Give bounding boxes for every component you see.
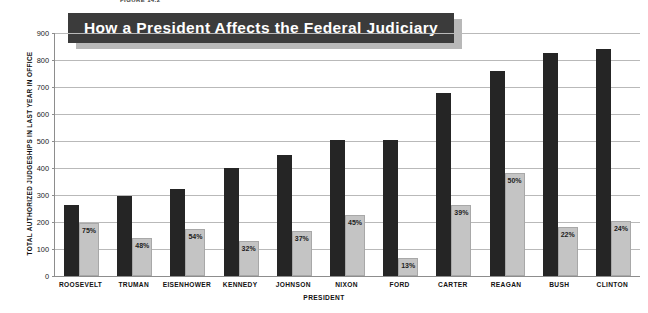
y-axis-tick-label: 900 [15,29,49,38]
x-axis-category-label: BUSH [533,281,586,288]
bar-percent-label: 50% [506,177,524,184]
bar-judgeships-filled: 13% [398,258,418,276]
bar-group: 37% [277,33,312,276]
plot-area: 0100200300400500600700800900 75%48%54%32… [54,33,639,277]
bar-judgeships-filled: 45% [345,215,365,276]
figure-label: FIGURE 14.2 [120,0,160,3]
x-axis-title: PRESIDENT [0,294,648,301]
y-axis-tick-label: 100 [15,245,49,254]
bar-percent-label: 32% [240,245,258,252]
bar-percent-label: 48% [133,242,151,249]
bar-group: 24% [596,33,631,276]
bar-judgeships-filled: 37% [292,231,312,276]
y-axis-tick-label: 0 [15,272,49,281]
x-axis-category-label: NIXON [320,281,373,288]
bar-judgeships-filled: 75% [79,223,99,276]
bar-percent-label: 54% [186,233,204,240]
y-axis-tick-label: 400 [15,164,49,173]
y-axis-tick-mark [52,276,55,277]
y-axis-tick-label: 700 [15,83,49,92]
y-axis-tick-label: 500 [15,137,49,146]
x-axis-category-label: REAGAN [479,281,532,288]
x-axis-category-label: KENNEDY [214,281,267,288]
bar-judgeships-filled: 24% [611,221,631,276]
y-axis-tick-label: 200 [15,218,49,227]
bar-group: 39% [436,33,471,276]
bar-judgeships-filled: 54% [185,229,205,276]
bar-group: 22% [543,33,578,276]
bar-judgeships-filled: 22% [558,227,578,276]
bar-judgeships-filled: 39% [451,205,471,276]
bar-total-judgeships [170,189,185,276]
bar-percent-label: 45% [346,219,364,226]
bar-total-judgeships [277,155,292,276]
bar-percent-label: 37% [293,235,311,242]
bar-total-judgeships [543,53,558,276]
bar-total-judgeships [490,71,505,276]
bar-group: 54% [170,33,205,276]
x-axis-category-label: TRUMAN [107,281,160,288]
x-axis-category-label: CLINTON [586,281,639,288]
bar-total-judgeships [596,49,611,276]
bar-group: 32% [224,33,259,276]
figure-root: FIGURE 14.2 How a President Affects the … [0,0,648,313]
bar-total-judgeships [383,140,398,276]
y-axis-tick-label: 300 [15,191,49,200]
bar-total-judgeships [436,93,451,276]
bar-group: 75% [64,33,99,276]
x-axis-category-labels: ROOSEVELTTRUMANEISENHOWERKENNEDYJOHNSONN… [54,281,639,295]
bar-judgeships-filled: 48% [132,238,152,276]
x-axis-category-label: CARTER [426,281,479,288]
x-axis-category-label: ROOSEVELT [54,281,107,288]
bar-total-judgeships [224,168,239,276]
y-axis-tick-label: 600 [15,110,49,119]
bar-percent-label: 39% [452,209,470,216]
bar-percent-label: 22% [559,231,577,238]
bar-percent-label: 24% [612,225,630,232]
bar-judgeships-filled: 32% [239,241,259,276]
x-axis-category-label: FORD [373,281,426,288]
bar-total-judgeships [330,140,345,276]
bar-series-container: 75%48%54%32%37%45%13%39%50%22%24% [55,33,640,276]
axis-baseline [55,276,640,277]
x-axis-category-label: JOHNSON [267,281,320,288]
y-axis-title: TOTAL AUTHORIZED JUDGESHIPS IN LAST YEAR… [26,29,33,279]
bar-percent-label: 13% [399,262,417,269]
x-axis-category-label: EISENHOWER [160,281,213,288]
bar-total-judgeships [117,196,132,276]
bar-group: 45% [330,33,365,276]
bar-group: 48% [117,33,152,276]
bar-group: 13% [383,33,418,276]
bar-total-judgeships [64,205,79,276]
bar-percent-label: 75% [80,227,98,234]
bar-group: 50% [490,33,525,276]
y-axis-tick-label: 800 [15,56,49,65]
bar-judgeships-filled: 50% [505,173,525,276]
